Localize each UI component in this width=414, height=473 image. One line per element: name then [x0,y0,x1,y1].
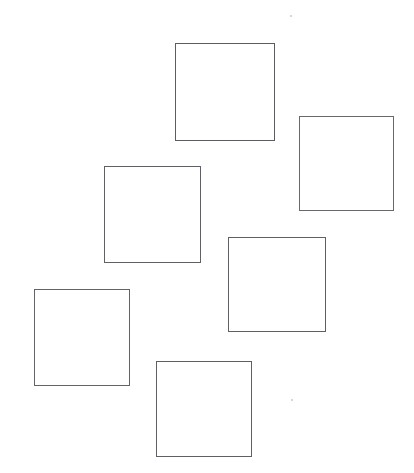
square-6[interactable] [156,361,252,457]
figure-title: Six outlined squares scattered on a whit… [0,0,1,1]
figure-canvas: Six outlined squares scattered on a whit… [0,0,414,473]
square-5[interactable] [34,289,130,386]
square-3[interactable] [104,166,201,263]
speck-top [290,15,292,17]
speck-bottom [291,399,293,401]
square-4[interactable] [228,237,326,332]
square-2[interactable] [299,116,394,211]
square-1[interactable] [175,43,275,141]
